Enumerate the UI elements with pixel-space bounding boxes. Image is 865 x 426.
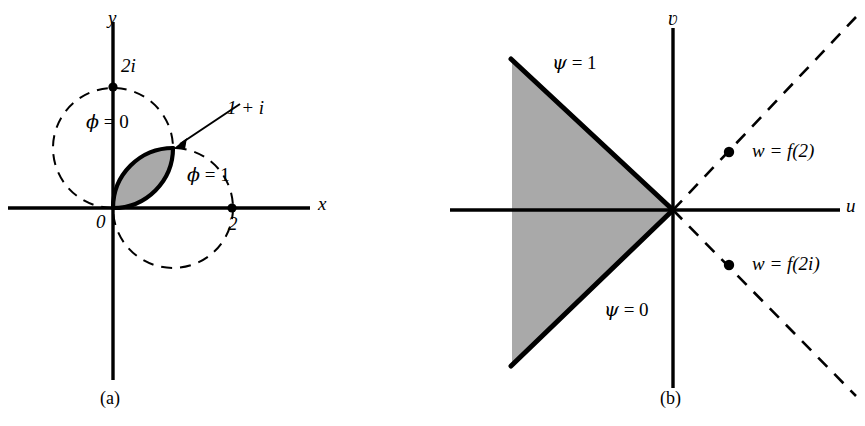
axis-label-v: ʋ — [668, 8, 678, 28]
boundary-label-phi-1: ϕ = 1 — [187, 165, 230, 184]
wedge-shaded-region — [512, 60, 673, 365]
origin-label-0: 0 — [96, 212, 106, 231]
phi-symbol-1: ϕ — [187, 163, 200, 185]
panel-a-z-plane: y x 2i 0 2 1 + i ϕ = 0 ϕ = 1 (a) — [0, 0, 432, 426]
boundary-label-psi-1: ψ = 1 — [552, 53, 597, 72]
point-label-w-f2i: w = f(2i) — [752, 254, 820, 273]
dashed-ray-upper-right — [673, 17, 856, 210]
axis-label-x: x — [318, 194, 326, 213]
panel-b-drawing — [432, 0, 865, 426]
point-dot-2i — [108, 82, 117, 91]
panel-a-drawing — [0, 0, 432, 426]
point-label-w-f2: w = f(2) — [752, 141, 814, 160]
point-dot-2 — [227, 203, 236, 212]
figure-root: y x 2i 0 2 1 + i ϕ = 0 ϕ = 1 (a) — [0, 0, 865, 426]
axis-label-u: u — [846, 196, 856, 215]
panel-b-caption: (b) — [660, 389, 681, 407]
point-dot-w-f2i — [724, 260, 734, 270]
phi-1-equals-value: = 1 — [200, 164, 230, 185]
panel-a-caption: (a) — [100, 389, 120, 407]
boundary-label-psi-0: ψ = 0 — [604, 300, 649, 319]
psi-symbol-1: ψ — [552, 51, 567, 73]
phi-0-equals-value: = 0 — [99, 111, 129, 132]
boundary-label-phi-0: ϕ = 0 — [86, 112, 129, 131]
dashed-ray-lower-right — [673, 210, 856, 396]
point-label-2: 2 — [228, 214, 238, 233]
phi-symbol-0: ϕ — [86, 110, 99, 132]
psi-0-equals-value: = 0 — [619, 299, 649, 320]
point-dot-w-f2 — [724, 147, 734, 157]
point-label-1-plus-i: 1 + i — [227, 98, 264, 117]
panel-b-w-plane: ʋ u ψ = 1 ψ = 0 w = f(2) w = f(2i) (b) — [432, 0, 865, 426]
axis-label-y: y — [108, 8, 116, 27]
psi-symbol-0: ψ — [604, 298, 619, 320]
point-label-2i: 2i — [121, 56, 136, 75]
psi-1-equals-value: = 1 — [567, 52, 597, 73]
